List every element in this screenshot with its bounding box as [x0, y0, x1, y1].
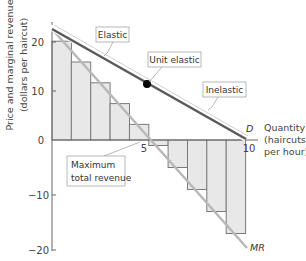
callout-max-revenue: Maximum total revenue — [67, 156, 132, 186]
chart: Price and marginal revenue (dollars per … — [0, 0, 306, 261]
callout-elastic-text: Elastic — [98, 30, 127, 40]
y-tick-20: 20 — [31, 37, 44, 48]
mr-bar — [207, 140, 226, 212]
callout-max-revenue-line1: Maximum — [71, 160, 115, 170]
x-axis-title-line1: Quantity — [264, 122, 305, 133]
mr-label: MR — [250, 242, 265, 253]
y-axis-title-line1: Price and marginal revenue — [4, 0, 15, 130]
demand-label: D — [246, 123, 253, 134]
callout-unit-elastic-text: Unit elastic — [149, 55, 199, 65]
y-tick-neg10: −10 — [28, 190, 49, 201]
mr-bar — [110, 104, 129, 140]
x-axis-title-line3: per hour) — [264, 146, 306, 157]
mr-bar — [71, 62, 90, 140]
mr-bar — [188, 140, 207, 190]
x-tick-5: 5 — [141, 143, 147, 154]
y-tick-neg20: −20 — [28, 245, 49, 256]
callout-max-revenue-line2: total revenue — [71, 173, 132, 183]
x-tick-10: 10 — [243, 143, 256, 154]
mr-bar — [226, 140, 245, 234]
y-tick-10: 10 — [31, 86, 44, 97]
callout-unit-elastic: Unit elastic — [148, 52, 201, 67]
callout-inelastic: Inelastic — [203, 82, 246, 97]
callout-elastic: Elastic — [96, 27, 129, 42]
y-axis-title-line2: (dollars per haircut) — [18, 18, 29, 112]
callout-inelastic-text: Inelastic — [206, 85, 244, 95]
x-axis-title-line2: (haircuts — [264, 134, 306, 145]
y-tick-0: 0 — [38, 135, 44, 146]
